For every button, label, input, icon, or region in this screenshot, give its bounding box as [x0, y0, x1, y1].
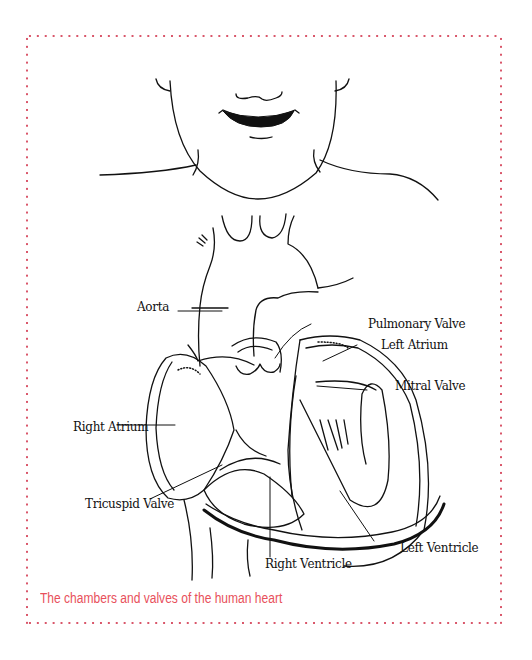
child-outline	[100, 79, 438, 200]
label-right-ventricle: Right Ventricle	[265, 557, 352, 571]
label-left-atrium: Left Atrium	[381, 338, 448, 352]
figure-caption: The chambers and valves of the human hea…	[40, 590, 282, 606]
label-aorta: Aorta	[137, 300, 169, 314]
label-left-ventricle: Left Ventricle	[400, 541, 478, 555]
label-pulmonary-valve: Pulmonary Valve	[368, 317, 465, 331]
label-right-atrium: Right Atrium	[73, 420, 148, 434]
aorta-vessels	[188, 214, 353, 366]
label-tricuspid-valve: Tricuspid Valve	[85, 497, 174, 511]
label-mitral-valve: Mitral Valve	[395, 379, 465, 393]
